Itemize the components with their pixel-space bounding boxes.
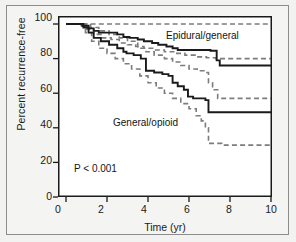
ytick-label-20: 20 — [22, 154, 52, 166]
xtick-label-2: 2 — [88, 203, 114, 215]
ytick-label-0: 0 — [22, 190, 52, 202]
xtick-label-8: 8 — [216, 203, 242, 215]
y-axis-label: Percent recurrence-free — [15, 0, 27, 149]
xtick-label-4: 4 — [131, 203, 157, 215]
xtick-label-10: 10 — [258, 203, 284, 215]
xtick-label-0: 0 — [45, 203, 71, 215]
annotation-p-value: P < 0.001 — [74, 163, 117, 174]
annotation-epidural-general: Epidural/general — [166, 30, 239, 41]
xtick-label-6: 6 — [174, 203, 200, 215]
figure-root: 100 80 60 40 20 0 0 2 4 6 8 10 Percent r… — [0, 0, 296, 242]
annotation-general-opioid: General/opioid — [113, 117, 178, 128]
x-axis-label: Time (yr) — [58, 221, 272, 233]
